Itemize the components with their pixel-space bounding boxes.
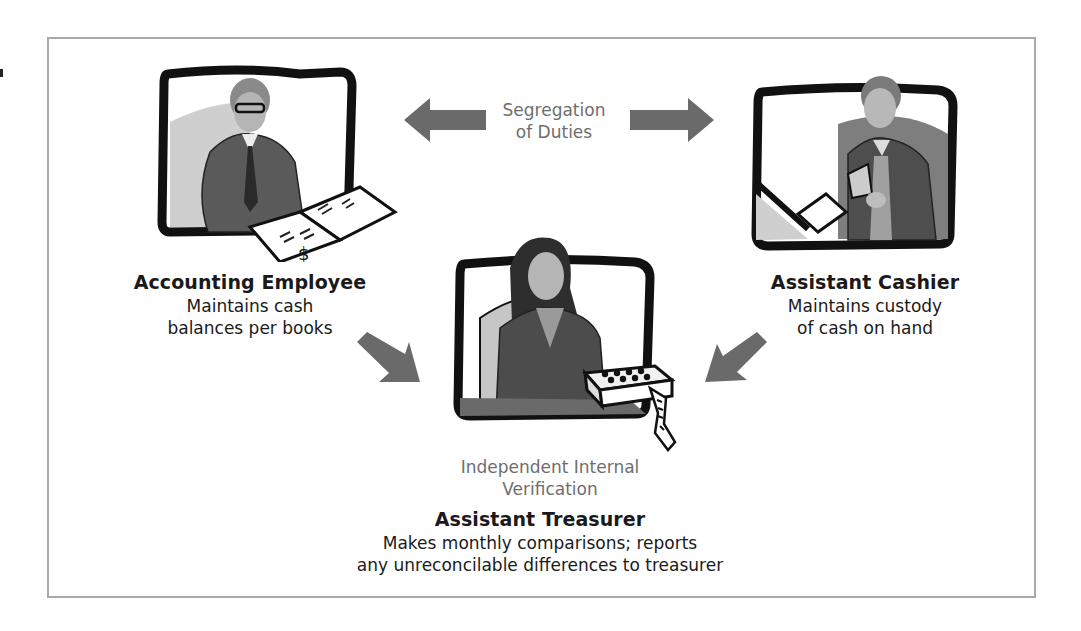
assistant-cashier-illustration xyxy=(748,64,963,254)
role-desc-line-2: balances per books xyxy=(100,317,400,339)
role-desc-line-1: Maintains cash xyxy=(100,295,400,317)
role-desc-line-2: any unreconcilable differences to treasu… xyxy=(300,554,780,576)
arrow-right-icon xyxy=(630,98,714,142)
role-title: Accounting Employee xyxy=(100,271,400,293)
role-title: Assistant Cashier xyxy=(735,271,995,293)
role-title: Assistant Treasurer xyxy=(300,508,780,530)
role-desc-line-1: Makes monthly comparisons; reports xyxy=(300,532,780,554)
segregation-line-2: of Duties xyxy=(490,121,618,143)
arrow-left-icon xyxy=(404,98,486,142)
segregation-line-1: Segregation xyxy=(490,99,618,121)
independent-verification-label: Independent Internal Verification xyxy=(390,456,710,500)
verification-line-2: Verification xyxy=(390,478,710,500)
edge-mark xyxy=(0,69,3,77)
role-desc-line-1: Maintains custody xyxy=(735,295,995,317)
role-assistant-cashier: Assistant Cashier Maintains custody of c… xyxy=(735,271,995,339)
role-accounting-employee: Accounting Employee Maintains cash balan… xyxy=(100,271,400,339)
arrow-down-right-icon xyxy=(357,332,422,384)
arrow-down-left-icon xyxy=(705,332,767,384)
accounting-employee-illustration: $ xyxy=(150,62,400,262)
role-assistant-treasurer: Assistant Treasurer Makes monthly compar… xyxy=(300,508,780,576)
segregation-of-duties-label: Segregation of Duties xyxy=(490,99,618,143)
role-desc-line-2: of cash on hand xyxy=(735,317,995,339)
verification-line-1: Independent Internal xyxy=(390,456,710,478)
assistant-treasurer-illustration xyxy=(450,228,680,453)
svg-text:$: $ xyxy=(298,243,309,262)
